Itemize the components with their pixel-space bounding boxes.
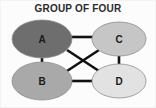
nodes-group: ACBD: [12, 20, 146, 100]
node-label-b: B: [38, 76, 45, 87]
graph-node-c[interactable]: C: [92, 22, 146, 56]
graph-node-b[interactable]: B: [12, 62, 72, 100]
graph-node-d[interactable]: D: [92, 64, 146, 98]
graph-node-a[interactable]: A: [12, 20, 72, 58]
node-label-c: C: [115, 34, 122, 45]
graph-canvas: ACBD: [1, 1, 156, 108]
node-label-a: A: [38, 34, 45, 45]
node-label-d: D: [115, 76, 122, 87]
group-of-four-figure: GROUP OF FOUR ACBD: [0, 0, 156, 108]
